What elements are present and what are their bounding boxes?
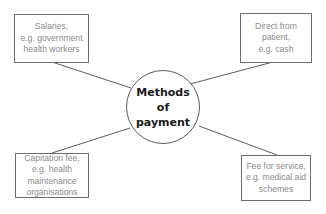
node-line: Capitation fee, (24, 153, 79, 165)
node-line: Fee for service, (246, 161, 306, 173)
center-node-methods-of-payment: Methods of payment (126, 70, 200, 144)
connector-bottom-right (199, 126, 277, 155)
node-line: e.g. health (24, 164, 79, 176)
node-line: e.g. medical aid (246, 172, 306, 184)
connector-top-left (52, 62, 131, 88)
connector-top-right (190, 62, 273, 84)
node-line: organisations (24, 187, 79, 199)
node-capitation-fee: Capitation fee, e.g. health maintenance … (15, 153, 89, 198)
node-line: e.g. cash (255, 44, 297, 56)
node-line: health workers (20, 44, 82, 56)
node-line: patient, (255, 32, 297, 44)
node-line: Direct from (255, 21, 297, 33)
center-line: payment (136, 115, 190, 130)
connector-bottom-left (52, 128, 130, 153)
node-salaries: Salaries, e.g. government health workers (14, 14, 89, 63)
node-line: schemes (246, 184, 306, 196)
node-line: Salaries, (20, 21, 82, 33)
node-line: e.g. government (20, 33, 82, 45)
center-line: of (157, 100, 169, 115)
node-fee-for-service: Fee for service, e.g. medical aid scheme… (241, 155, 311, 201)
node-line: maintenance (24, 176, 79, 188)
center-line: Methods (136, 85, 189, 100)
node-direct-from-patient: Direct from patient, e.g. cash (240, 13, 312, 63)
